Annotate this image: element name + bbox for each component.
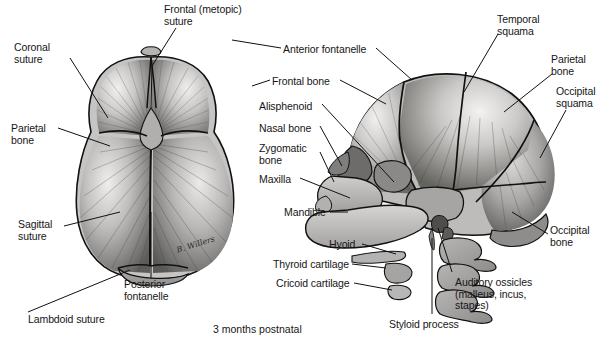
label-anterior-fontanelle: Anterior fontanelle bbox=[283, 44, 366, 56]
label-occipital-bone: Occipital bone bbox=[550, 225, 589, 248]
label-coronal-suture: Coronal suture bbox=[14, 42, 50, 65]
label-nasal-bone: Nasal bone bbox=[259, 123, 311, 135]
label-temporal-squama: Temporal squama bbox=[497, 14, 539, 37]
label-mandible: Mandible bbox=[284, 207, 326, 219]
label-lambdoid-suture: Lambdoid suture bbox=[28, 314, 105, 326]
label-auditory-ossicles: Auditory ossicles (malleus, incus, stape… bbox=[455, 277, 532, 312]
label-maxilla: Maxilla bbox=[259, 174, 291, 186]
label-cricoid-cartilage: Cricoid cartilage bbox=[276, 278, 350, 290]
label-thyroid-cartilage: Thyroid cartilage bbox=[273, 259, 349, 271]
label-posterior-fontanelle: Posterior fontanelle bbox=[124, 279, 169, 302]
label-occipital-squama: Occipital squama bbox=[556, 86, 595, 109]
label-parietal-bone-lateral: Parietal bone bbox=[551, 54, 586, 77]
label-styloid-process: Styloid process bbox=[389, 319, 459, 331]
label-frontal-metopic-suture: Frontal (metopic) suture bbox=[164, 4, 242, 27]
anatomy-figure: Frontal (metopic) suture Coronal suture … bbox=[0, 0, 608, 342]
label-frontal-bone: Frontal bone bbox=[272, 76, 330, 88]
label-parietal-bone-superior: Parietal bone bbox=[11, 123, 46, 146]
label-sagittal-suture: Sagittal suture bbox=[18, 219, 52, 242]
label-hyoid: Hyoid bbox=[329, 239, 355, 251]
label-alisphenoid: Alisphenoid bbox=[259, 101, 312, 113]
label-zygomatic-bone: Zygomatic bone bbox=[259, 143, 307, 166]
figure-caption: 3 months postnatal bbox=[213, 323, 302, 335]
